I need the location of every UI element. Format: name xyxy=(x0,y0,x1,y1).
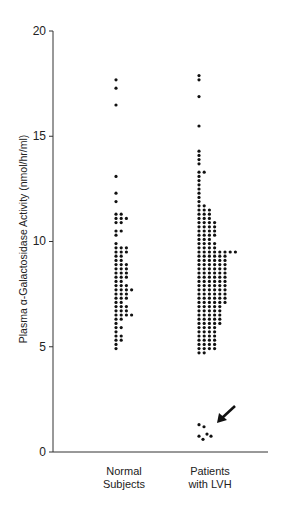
data-point xyxy=(213,313,216,316)
data-point xyxy=(114,288,117,291)
data-point xyxy=(114,284,117,287)
data-point xyxy=(223,284,226,287)
data-point xyxy=(208,271,211,274)
data-point xyxy=(197,334,200,337)
data-point xyxy=(223,288,226,291)
data-point xyxy=(125,288,128,291)
data-point xyxy=(197,78,200,81)
data-point xyxy=(197,200,200,203)
data-point xyxy=(197,183,200,186)
plot-area xyxy=(0,0,283,513)
data-point xyxy=(197,154,200,157)
data-point xyxy=(120,309,123,312)
data-point xyxy=(208,259,211,262)
data-point xyxy=(213,288,216,291)
data-point xyxy=(197,150,200,153)
data-point xyxy=(114,322,117,325)
data-point xyxy=(208,213,211,216)
data-point xyxy=(213,318,216,321)
data-point xyxy=(208,339,211,342)
data-point xyxy=(223,267,226,270)
data-point xyxy=(203,334,206,337)
data-point xyxy=(197,192,200,195)
data-point xyxy=(213,305,216,308)
data-point xyxy=(197,318,200,321)
series-patients-lvh xyxy=(197,74,237,441)
data-point xyxy=(223,263,226,266)
data-point xyxy=(197,196,200,199)
data-point xyxy=(197,95,200,98)
data-point xyxy=(114,339,117,342)
data-point xyxy=(125,263,128,266)
data-point xyxy=(125,250,128,253)
y-tick-label-15: 15 xyxy=(22,129,46,143)
data-point xyxy=(208,246,211,249)
data-point xyxy=(208,297,211,300)
data-point xyxy=(114,313,117,316)
data-point xyxy=(114,326,117,329)
data-point xyxy=(114,318,117,321)
data-point xyxy=(213,309,216,312)
data-point xyxy=(114,175,117,178)
data-point xyxy=(208,284,211,287)
data-point xyxy=(218,250,221,253)
data-point xyxy=(197,271,200,274)
data-point xyxy=(120,271,123,274)
data-point xyxy=(218,259,221,262)
data-point xyxy=(203,246,206,249)
data-point xyxy=(218,292,221,295)
data-point xyxy=(203,255,206,258)
data-point xyxy=(203,297,206,300)
data-point xyxy=(208,309,211,312)
data-point xyxy=(203,305,206,308)
data-point xyxy=(197,297,200,300)
data-point xyxy=(223,255,226,258)
data-point xyxy=(208,221,211,224)
data-point xyxy=(114,250,117,253)
category-label-lvh: Patients with LVH xyxy=(170,465,250,491)
data-point xyxy=(125,267,128,270)
data-point xyxy=(114,267,117,270)
data-point xyxy=(114,276,117,279)
data-point xyxy=(197,305,200,308)
data-point xyxy=(197,313,200,316)
data-point xyxy=(223,276,226,279)
data-point xyxy=(120,259,123,262)
data-point xyxy=(114,229,117,232)
data-point xyxy=(114,263,117,266)
data-point xyxy=(120,213,123,216)
data-point xyxy=(197,242,200,245)
data-point xyxy=(120,255,123,258)
data-point xyxy=(120,334,123,337)
data-point xyxy=(203,313,206,316)
data-point xyxy=(197,347,200,350)
data-point xyxy=(213,334,216,337)
data-point xyxy=(114,292,117,295)
data-point xyxy=(218,322,221,325)
data-point xyxy=(203,238,206,241)
data-point xyxy=(197,250,200,253)
data-point xyxy=(197,204,200,207)
y-tick-label-10: 10 xyxy=(22,234,46,248)
data-point xyxy=(125,305,128,308)
data-point xyxy=(208,267,211,270)
data-point xyxy=(197,263,200,266)
data-point xyxy=(223,280,226,283)
data-point xyxy=(223,250,226,253)
data-point xyxy=(203,276,206,279)
data-point xyxy=(213,242,216,245)
outlier-data-point xyxy=(202,425,205,428)
data-point xyxy=(208,208,211,211)
data-point xyxy=(213,271,216,274)
data-point xyxy=(197,225,200,228)
data-point xyxy=(229,250,232,253)
data-point xyxy=(197,229,200,232)
data-point xyxy=(213,280,216,283)
data-point xyxy=(197,284,200,287)
data-point xyxy=(197,276,200,279)
data-point xyxy=(218,318,221,321)
category-label-line1: Patients xyxy=(170,465,250,478)
data-point xyxy=(125,271,128,274)
data-point xyxy=(213,330,216,333)
data-point xyxy=(213,284,216,287)
